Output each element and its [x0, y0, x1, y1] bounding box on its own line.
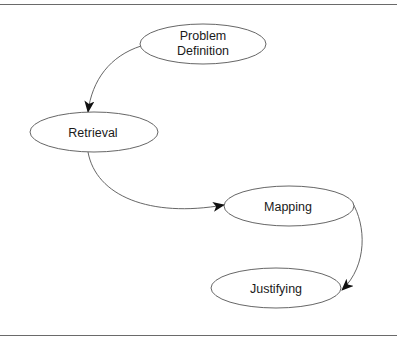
- node-label-line-1: Problem: [180, 29, 227, 43]
- edge-retrieval-to-mapping: [88, 152, 224, 209]
- node-justifying: Justifying: [211, 268, 341, 308]
- node-label: Mapping: [264, 200, 312, 214]
- node-label-line-2: Definition: [177, 44, 229, 58]
- node-problem-definition: Problem Definition: [140, 24, 266, 64]
- edge-problem-definition-to-retrieval: [88, 46, 141, 112]
- flow-diagram: Problem Definition Retrieval Mapping Jus…: [0, 0, 397, 337]
- node-retrieval: Retrieval: [30, 112, 158, 152]
- node-mapping: Mapping: [224, 186, 354, 226]
- node-label: Retrieval: [68, 126, 117, 140]
- node-label: Justifying: [250, 282, 302, 296]
